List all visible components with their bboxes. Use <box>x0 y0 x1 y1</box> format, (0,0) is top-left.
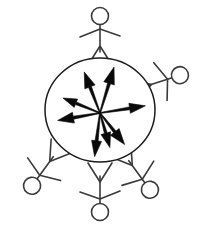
stick-figure-head-icon <box>20 174 44 198</box>
diagram-root: A central ellipse with eight bold arrows… <box>0 0 204 236</box>
stick-figure-head-icon <box>138 178 162 202</box>
stick-figure-head-icon <box>92 204 109 221</box>
stick-figure-top[interactable] <box>80 8 120 66</box>
radial-influence-diagram <box>0 0 204 236</box>
stick-figure-head-icon <box>169 64 190 85</box>
stick-figure-head-icon <box>92 8 109 25</box>
stick-figure-bottom[interactable] <box>80 163 120 221</box>
